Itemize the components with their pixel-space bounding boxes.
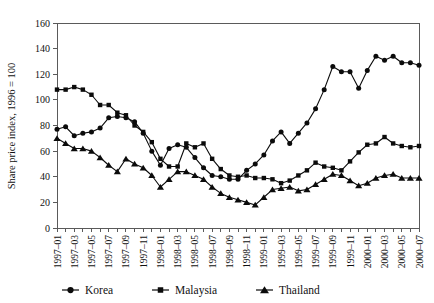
x-tick-label: 1997–03 (70, 235, 80, 269)
data-point (158, 157, 162, 161)
legend-label: Korea (85, 284, 113, 296)
data-point (373, 54, 378, 59)
legend-label: Malaysia (175, 284, 217, 297)
x-tick-label: 1997–11 (139, 235, 149, 268)
legend-item-malaysia[interactable]: Malaysia (152, 284, 217, 297)
data-point (219, 167, 223, 171)
data-point (305, 168, 309, 172)
data-point (227, 173, 231, 177)
x-tick-label: 1999–09 (328, 235, 338, 269)
data-point (339, 168, 343, 172)
data-point (296, 173, 300, 177)
data-point (167, 146, 172, 151)
data-point (313, 106, 318, 111)
legend-marker-square-icon (158, 287, 164, 293)
data-point (63, 124, 68, 129)
x-tick-label: 2000–01 (363, 235, 373, 269)
data-point (122, 156, 129, 162)
y-tick-label: 160 (35, 18, 50, 29)
x-tick-label: 1999–11 (346, 235, 356, 268)
data-point (175, 142, 180, 147)
data-point (279, 181, 283, 185)
share-price-index-line-chart: Share price index, 1996 = 100 0204060801… (0, 0, 434, 303)
data-point (312, 181, 319, 187)
data-point (131, 161, 138, 167)
legend-marker-circle-icon (67, 287, 73, 293)
x-axis-ticks: 1997–011997–031997–051997–071997–091997–… (53, 228, 425, 268)
legend-item-korea[interactable]: Korea (62, 284, 113, 296)
series-line-thailand (57, 138, 419, 205)
data-point (253, 161, 258, 166)
data-point (150, 140, 154, 144)
y-tick-label: 100 (35, 94, 50, 105)
data-point (348, 69, 353, 74)
data-point (62, 140, 69, 146)
x-tick-label: 1998–01 (156, 235, 166, 269)
data-point (98, 103, 102, 107)
data-point (330, 64, 335, 69)
data-point (236, 175, 240, 179)
data-point (72, 133, 77, 138)
x-tick-label: 1997–07 (104, 235, 114, 269)
y-axis-ticks: 020406080100120140160 (35, 18, 57, 234)
data-point (53, 135, 60, 141)
data-point (391, 54, 396, 59)
data-point (339, 69, 344, 74)
y-tick-label: 140 (35, 43, 50, 54)
y-axis-title-text: Share price index, 1996 = 100 (6, 63, 17, 190)
y-tick-label: 40 (40, 171, 50, 182)
legend-item-thailand[interactable]: Thailand (256, 284, 320, 296)
y-axis-title: Share price index, 1996 = 100 (6, 63, 17, 190)
data-point (356, 150, 360, 154)
data-point (72, 85, 76, 89)
data-point (262, 176, 266, 180)
data-point (321, 176, 328, 182)
x-tick-label: 1997–05 (87, 235, 97, 269)
x-tick-label: 1999–05 (294, 235, 304, 269)
data-point (303, 186, 310, 192)
data-point (331, 166, 335, 170)
x-tick-label: 1997–01 (53, 235, 63, 269)
data-point (132, 123, 136, 127)
data-point (106, 115, 111, 120)
data-point (391, 141, 395, 145)
series-malaysia (55, 85, 421, 185)
data-point (89, 129, 94, 134)
data-point (193, 145, 197, 149)
data-point (55, 87, 59, 91)
data-point (191, 172, 198, 178)
data-point (382, 135, 386, 139)
x-tick-label: 1998–03 (173, 235, 183, 269)
data-point (175, 164, 179, 168)
data-point (313, 160, 317, 164)
series-korea (55, 54, 422, 182)
data-point (286, 184, 293, 190)
series-line-korea (57, 56, 419, 179)
data-point (158, 163, 163, 168)
data-point (329, 171, 336, 177)
chart-legend: KoreaMalaysiaThailand (62, 284, 320, 297)
data-point (201, 165, 206, 170)
data-point (80, 131, 85, 136)
data-point (210, 173, 215, 178)
data-point (382, 58, 387, 63)
data-point (89, 93, 93, 97)
data-point (210, 157, 214, 161)
x-tick-label: 1998–09 (225, 235, 235, 269)
data-point (192, 155, 197, 160)
data-point (399, 60, 404, 65)
data-point (115, 110, 119, 114)
x-tick-label: 1997–09 (121, 235, 131, 269)
y-tick-label: 0 (45, 223, 50, 234)
data-series-group (53, 54, 422, 208)
data-point (253, 176, 257, 180)
data-point (107, 103, 111, 107)
data-point (98, 126, 103, 131)
x-tick-label: 1998–11 (242, 235, 252, 268)
x-tick-label: 2000–03 (380, 235, 390, 269)
data-point (81, 87, 85, 91)
y-tick-label: 120 (35, 69, 50, 80)
legend-label: Thailand (279, 284, 320, 296)
y-tick-label: 20 (40, 197, 50, 208)
data-point (356, 86, 361, 91)
